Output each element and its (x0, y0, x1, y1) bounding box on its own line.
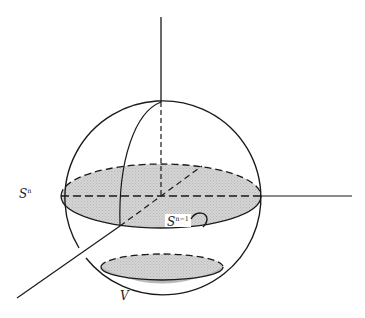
sphere-label: Sn (19, 187, 31, 201)
cap-label: V (120, 289, 130, 303)
sphere-diagram: Sn−1 Sn V (0, 0, 365, 318)
